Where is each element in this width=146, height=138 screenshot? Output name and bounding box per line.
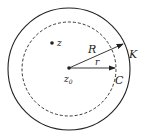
label-z0: z0 <box>63 74 73 85</box>
label-K: K <box>128 48 138 61</box>
label-z: z <box>56 38 62 48</box>
label-C: C <box>115 74 124 87</box>
point-z <box>50 41 54 45</box>
label-R: R <box>87 43 96 56</box>
concentric-circles-diagram: z R r K C z0 <box>0 0 146 138</box>
diagram-canvas: z R r K C z0 <box>0 0 146 138</box>
label-r: r <box>95 57 100 67</box>
center-point-z0 <box>67 66 71 70</box>
